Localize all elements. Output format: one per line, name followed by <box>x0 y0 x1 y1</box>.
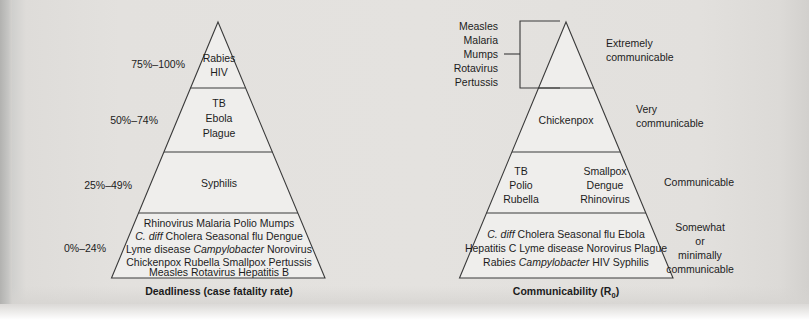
figure-root: 75%–100% 50%–74% 25%–49% 0%–24% Rabies H… <box>0 0 809 332</box>
right-caption-main: Communicability (R <box>513 285 612 297</box>
right-tier1-line3-post: HIV Syphilis <box>589 256 649 268</box>
right-level-label-minimal-line3: minimally <box>678 249 723 261</box>
right-tier3-line1: Chickenpox <box>539 114 595 126</box>
left-tier4-line1: Rabies <box>203 52 236 64</box>
right-caption-tail: ) <box>616 285 620 297</box>
left-tier1-line3-pre: Lyme disease <box>126 243 193 255</box>
right-tier1-line1-italic: C. diff <box>487 228 516 240</box>
left-tier1-line2-rest: Cholera Seasonal flu Dengue <box>163 230 303 242</box>
left-tier2-line1: Syphilis <box>201 177 237 189</box>
bracket-item-pertussis: Pertussis <box>455 76 498 88</box>
right-pyramid-caption: Communicability (R0) <box>513 285 619 300</box>
right-tier2-col1-line3: Rubella <box>503 193 539 205</box>
left-tier3-line2: Ebola <box>206 112 233 124</box>
right-tier1-line2: Hepatitis C Lyme disease Norovirus Plagu… <box>465 242 667 254</box>
left-tier1-line3-post: Norovirus <box>264 243 312 255</box>
right-level-label-minimal-line2: or <box>695 235 705 247</box>
right-tier2-col1-line1: TB <box>514 165 527 177</box>
right-tier1-line3: Rabies Campylobacter HIV Syphilis <box>483 256 649 268</box>
right-tier1-line1-rest: Cholera Seasonal flu Ebola <box>515 228 645 240</box>
right-level-label-very-line2: communicable <box>636 117 704 129</box>
right-level-label-very-line1: Very <box>636 103 658 115</box>
left-range-label-25-49: 25%–49% <box>84 179 132 191</box>
bracket-item-measles: Measles <box>459 20 498 32</box>
left-tier1-line3: Lyme disease Campylobacter Norovirus <box>126 243 312 255</box>
left-tier1-line2: C. diff Cholera Seasonal flu Dengue <box>135 230 303 242</box>
right-tier2-col1-line2: Polio <box>509 179 533 191</box>
pyramids-diagram: 75%–100% 50%–74% 25%–49% 0%–24% Rabies H… <box>0 0 809 332</box>
right-tier2-col2-line2: Dengue <box>587 179 624 191</box>
bracket-item-malaria: Malaria <box>464 34 499 46</box>
left-tier4-line2: HIV <box>210 66 228 78</box>
right-level-label-communicable: Communicable <box>664 176 734 188</box>
left-pyramid-group: 75%–100% 50%–74% 25%–49% 0%–24% Rabies H… <box>64 22 325 297</box>
left-range-label-75-100: 75%–100% <box>131 58 185 70</box>
right-tier2-col2-line3: Rhinovirus <box>580 193 630 205</box>
right-pyramid-group: Measles Malaria Mumps Rotavirus Pertussi… <box>454 20 735 300</box>
left-tier1-line3-italic: Campylobacter <box>193 243 264 255</box>
left-tier3-line1: TB <box>212 97 225 109</box>
bracket-item-rotavirus: Rotavirus <box>454 62 498 74</box>
left-range-label-50-74: 50%–74% <box>110 114 158 126</box>
bracket-item-mumps: Mumps <box>464 48 498 60</box>
right-tier1-line3-italic: Campylobacter <box>519 256 590 268</box>
left-tier1-line1: Rhinovirus Malaria Polio Mumps <box>144 217 295 229</box>
right-level-label-extremely-line2: communicable <box>606 51 674 63</box>
left-tier1-line5: Measles Rotavirus Hepatitis B <box>149 266 289 278</box>
left-range-label-0-24: 0%–24% <box>64 242 106 254</box>
right-level-label-extremely-line1: Extremely <box>606 37 653 49</box>
right-tier1-line1: C. diff Cholera Seasonal flu Ebola <box>487 228 645 240</box>
right-level-label-minimal-line1: Somewhat <box>675 221 725 233</box>
left-pyramid-caption: Deadliness (case fatality rate) <box>145 285 293 297</box>
right-level-label-minimal-line4: communicable <box>666 263 734 275</box>
right-tier2-col2-line1: Smallpox <box>583 165 627 177</box>
left-tier1-line2-italic: C. diff <box>135 230 164 242</box>
right-tier1-line3-pre: Rabies <box>483 256 519 268</box>
left-tier3-line3: Plague <box>203 127 236 139</box>
